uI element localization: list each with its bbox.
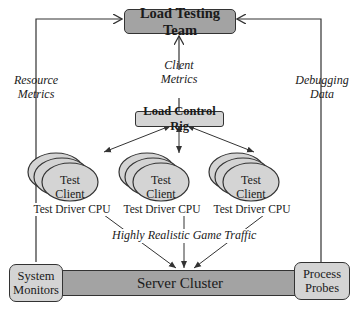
game-traffic-label: Highly Realistic Game Traffic bbox=[112, 229, 252, 243]
test-client-label-2: TestClient bbox=[139, 174, 183, 202]
load-control-rig-label: Load Control Rig bbox=[136, 104, 223, 134]
debugging-data-label: DebuggingData bbox=[291, 74, 353, 102]
system-monitors-node: SystemMonitors bbox=[9, 264, 63, 302]
test-driver-cpu-caption-2: Test Driver CPU bbox=[117, 203, 207, 216]
load-testing-team-label: Load Testing Team bbox=[125, 5, 235, 39]
client-metrics-label: ClientMetrics bbox=[150, 59, 208, 87]
load-control-rig-node: Load Control Rig bbox=[135, 111, 224, 127]
test-driver-cpu-caption-3: Test Driver CPU bbox=[207, 203, 297, 216]
process-probes-node: ProcessProbes bbox=[294, 262, 350, 300]
test-driver-cpu-caption-1: Test Driver CPU bbox=[27, 203, 117, 216]
test-client-label-3: TestClient bbox=[229, 174, 273, 202]
load-testing-team-node: Load Testing Team bbox=[124, 9, 236, 34]
resource-metrics-label: ResourceMetrics bbox=[6, 74, 66, 102]
server-cluster-label: Server Cluster bbox=[137, 275, 223, 292]
test-client-label-1: TestClient bbox=[48, 174, 92, 202]
server-cluster-node: Server Cluster bbox=[60, 270, 300, 296]
